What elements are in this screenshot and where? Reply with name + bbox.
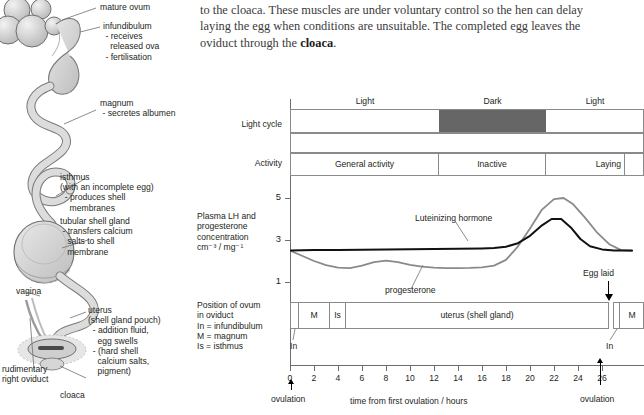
ovum-callout-in-2: In	[606, 341, 613, 351]
x-tick-4	[338, 366, 339, 371]
x-tick-0	[290, 366, 291, 371]
row-label-position-of-ovum: Position of ovum in oviduct In = infundi…	[197, 300, 289, 351]
x-tick-label-22: 22	[544, 373, 564, 383]
x-tick-label-2: 2	[304, 373, 324, 383]
x-tick-label-14: 14	[448, 373, 468, 383]
x-tick-18	[506, 366, 507, 371]
x-axis-title: time from first ovulation / hours	[350, 396, 468, 406]
x-tick-label-16: 16	[472, 373, 492, 383]
y-tick-label-3: 3	[262, 233, 281, 244]
ovum-callout-in-1: In	[290, 341, 297, 351]
activity-segment-inactive: Inactive	[439, 159, 545, 169]
x-tick-label-10: 10	[400, 373, 420, 383]
x-tick-label-8: 8	[376, 373, 396, 383]
x-tick-12	[434, 366, 435, 371]
annotation-label-egg-laid: Egg laid	[583, 268, 614, 278]
ovulation-end-arrow-stem	[600, 363, 601, 385]
ovum-segment-isthmus: Is	[330, 310, 345, 320]
x-tick-22	[554, 366, 555, 371]
ovum-segment-magnum-2: M	[620, 310, 644, 320]
x-tick-label-18: 18	[496, 373, 516, 383]
y-tick-label-5: 5	[262, 191, 281, 202]
ovulation-start-arrow-stem	[291, 384, 292, 390]
light-cycle-header-dark: Dark	[439, 96, 546, 106]
x-tick-label-6: 6	[352, 373, 372, 383]
light-cycle-header-light-1: Light	[291, 96, 439, 106]
hen-reproductive-cycle-chart: Light cycle Activity Plasma LH and proge…	[0, 0, 644, 415]
egg-laid-arrow-head	[605, 294, 613, 301]
light-cycle-header-light-2: Light	[546, 96, 644, 106]
activity-divider-3	[624, 154, 625, 175]
progesterone-curve	[290, 198, 632, 268]
ovum-segment-magnum: M	[299, 310, 329, 320]
annotation-label-ovulation-start: ovulation	[271, 394, 305, 404]
x-tick-14	[458, 366, 459, 371]
series-label-progesterone: progesterone	[385, 285, 436, 295]
row-label-activity: Activity	[196, 158, 282, 168]
x-tick-16	[482, 366, 483, 371]
light-cycle-spacer-band	[290, 133, 644, 153]
series-label-luteinizing-hormone: Luteinizing hormone	[415, 213, 492, 223]
x-tick-2	[314, 366, 315, 371]
row-label-light-cycle: Light cycle	[196, 119, 282, 129]
activity-segment-laying: Laying	[546, 159, 621, 169]
x-tick-label-24: 24	[568, 373, 588, 383]
x-axis-line	[290, 365, 644, 366]
ovum-segment-uterus: uterus (shell gland)	[346, 310, 608, 320]
light-cycle-dark-segment	[439, 110, 546, 132]
x-tick-10	[410, 366, 411, 371]
x-tick-20	[530, 366, 531, 371]
x-tick-label-20: 20	[520, 373, 540, 383]
luteinizing-hormone-curve	[290, 219, 632, 251]
x-tick-label-12: 12	[424, 373, 444, 383]
x-tick-8	[386, 366, 387, 371]
x-tick-26	[602, 366, 603, 371]
annotation-label-ovulation-end: ovulation	[580, 394, 614, 404]
row-label-concentration: Plasma LH and progesterone concentration…	[197, 211, 285, 252]
x-tick-6	[362, 366, 363, 371]
activity-segment-general-activity: General activity	[291, 159, 438, 169]
x-tick-24	[578, 366, 579, 371]
y-tick-label-1: 1	[262, 275, 281, 286]
x-tick-label-4: 4	[328, 373, 348, 383]
x-tick-label-26: 26	[592, 373, 612, 383]
